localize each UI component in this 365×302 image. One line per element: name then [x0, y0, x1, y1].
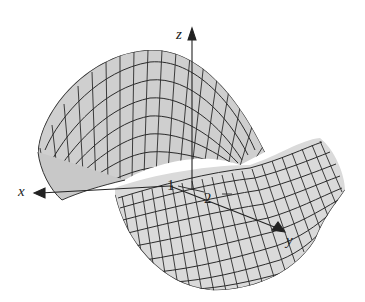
y-tick-2: 2: [204, 190, 212, 207]
z-axis-label: z: [176, 26, 182, 43]
y-axis-label: y: [286, 232, 293, 249]
x-axis-label: x: [18, 183, 25, 200]
x-axis-arrow-icon: [34, 188, 45, 198]
y-tick-1: 1: [167, 177, 175, 194]
surface-plot: [0, 0, 365, 302]
z-axis-arrow-icon: [188, 28, 196, 40]
